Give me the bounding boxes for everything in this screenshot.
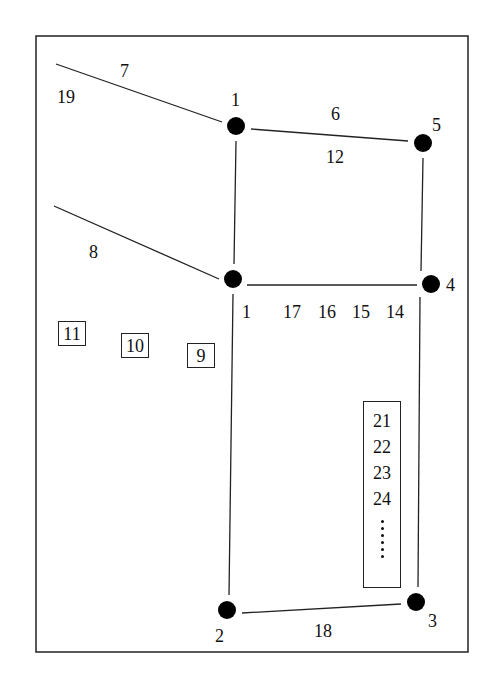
stack-item-24: 24 — [373, 486, 391, 512]
node-dot-3 — [407, 593, 425, 611]
edge-label-17: 17 — [283, 303, 301, 321]
edge-label-16: 16 — [318, 303, 336, 321]
edge-line — [54, 206, 219, 279]
diagram-frame — [36, 36, 468, 652]
node-label-2: 2 — [215, 627, 224, 645]
stack-item-23: 23 — [373, 460, 391, 486]
node-label-4: 4 — [446, 276, 455, 294]
edge-line — [418, 297, 420, 587]
node-label-1: 1 — [231, 91, 240, 109]
node-dot-4 — [422, 275, 440, 293]
edge-line — [242, 604, 401, 613]
edge-label-19: 19 — [57, 88, 75, 106]
edge-line — [56, 64, 222, 122]
edge-label-15: 15 — [352, 303, 370, 321]
edge-line — [229, 294, 233, 595]
edge-label-14: 14 — [386, 303, 404, 321]
stack-item-22: 22 — [373, 434, 391, 460]
boxed-label-11: 11 — [58, 321, 86, 346]
node-label-3: 3 — [428, 612, 437, 630]
edge-label-1: 1 — [242, 303, 251, 321]
vertical-ellipsis-icon — [381, 518, 384, 560]
edge-label-12: 12 — [326, 148, 344, 166]
edge-label-8: 8 — [89, 243, 98, 261]
stack-item-21: 21 — [373, 408, 391, 434]
stacked-label-box: 21 22 23 24 — [363, 401, 401, 588]
node-dot-5 — [414, 134, 432, 152]
edge-label-18: 18 — [314, 622, 332, 640]
node-dot-2 — [218, 601, 236, 619]
boxed-label-10: 10 — [121, 333, 149, 358]
edge-label-6: 6 — [331, 105, 340, 123]
node-label-5: 5 — [432, 116, 441, 134]
node-dot — [224, 270, 242, 288]
edge-line — [234, 141, 236, 264]
edge-label-7: 7 — [120, 62, 129, 80]
edge-line — [421, 158, 423, 271]
boxed-label-9: 9 — [187, 343, 215, 368]
edge-line — [251, 129, 408, 141]
node-dot-1 — [227, 117, 245, 135]
